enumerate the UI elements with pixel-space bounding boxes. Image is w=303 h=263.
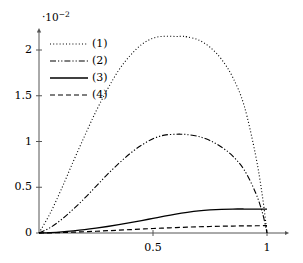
axes (36, 32, 285, 236)
y-tick-label: 0.5 (15, 181, 33, 192)
y-tick-label: 0 (25, 227, 32, 238)
y-tick-label: 1 (25, 136, 32, 147)
y-axis-exponent-label: ·10−2 (42, 12, 70, 23)
legend-label-1: (1) (92, 38, 108, 49)
y-axis-exponent-power: −2 (59, 10, 70, 19)
data-series-group (39, 36, 267, 233)
legend-label-4: (4) (92, 89, 108, 100)
x-tick-label: 1 (264, 242, 271, 253)
series-line-1 (39, 36, 267, 233)
plot-canvas (0, 0, 303, 263)
legend-sample-lines (50, 44, 88, 95)
y-tick-label: 1.5 (15, 90, 33, 101)
x-tick-label: 0.5 (144, 242, 162, 253)
legend-label-2: (2) (92, 55, 108, 66)
series-line-3 (39, 209, 267, 233)
legend-label-3: (3) (92, 72, 108, 83)
chart-figure: ·10−2 00.511.52 0.51 (1)(2)(3)(4) (0, 0, 303, 263)
y-tick-label: 2 (25, 44, 32, 55)
y-axis-exponent-base: ·10 (42, 11, 59, 23)
